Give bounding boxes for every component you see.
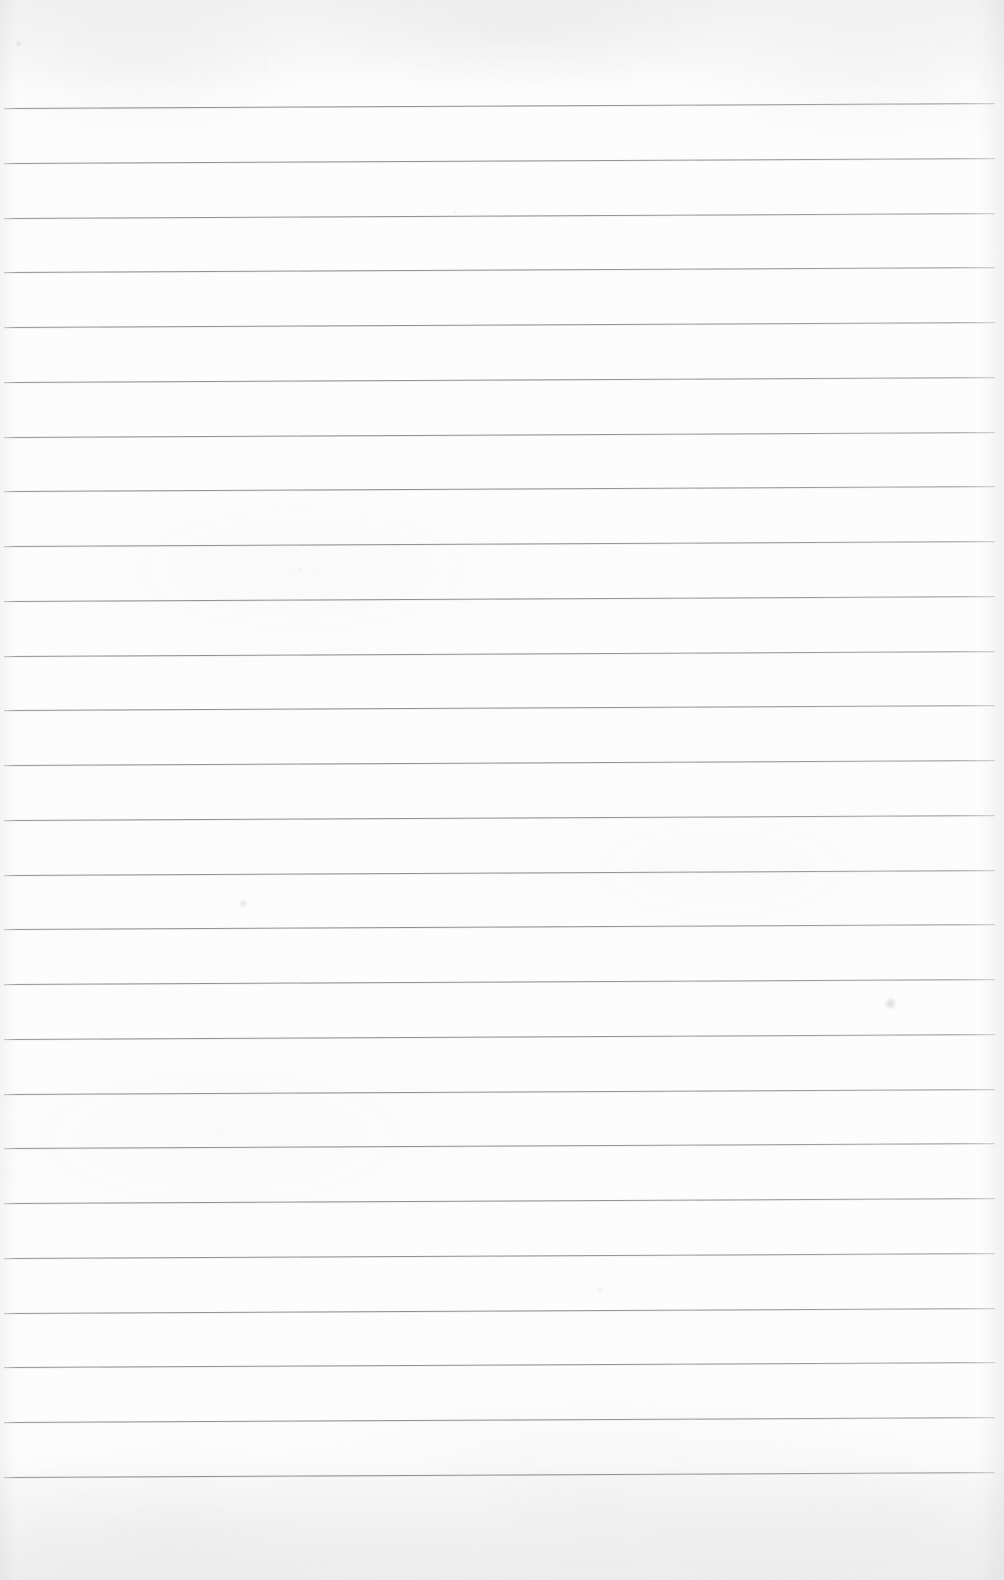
scanned-page <box>0 0 1004 1580</box>
paper-background <box>0 0 1004 1580</box>
